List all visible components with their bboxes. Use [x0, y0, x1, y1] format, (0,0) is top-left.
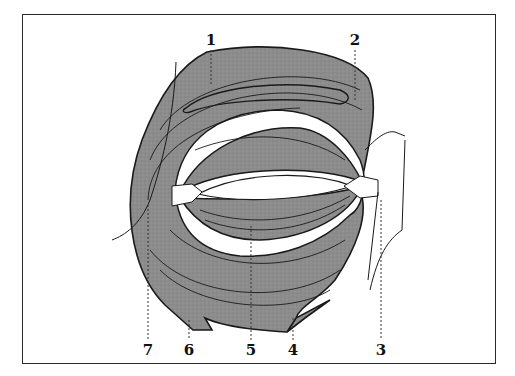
label-4: 4 — [288, 343, 298, 358]
label-7: 7 — [143, 343, 153, 358]
label-2: 2 — [350, 33, 360, 48]
label-6: 6 — [184, 343, 194, 358]
label-1: 1 — [206, 33, 216, 48]
label-3: 3 — [376, 343, 386, 358]
label-5: 5 — [246, 343, 256, 358]
diagram-stage: 1 2 3 4 5 6 7 — [0, 0, 515, 376]
muscle-illustration — [0, 0, 515, 376]
